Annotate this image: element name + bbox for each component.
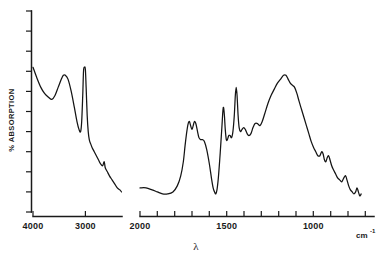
spectrum-trace-segment-2 [140,75,361,196]
x-axis-tick-label: 3000 [75,221,96,231]
x-axis-tick-label: 1500 [216,221,237,231]
x-axis-ticks [33,211,365,216]
spectrum-plot: 40003000200015001000 cm -1 λ % ABSORPTIO… [0,0,382,263]
x-axis-tick-labels: 40003000200015001000 [23,221,324,231]
x-axis-unit-exponent: -1 [370,228,376,234]
x-axis-tick-label: 2000 [130,221,151,231]
x-axis-tick-label: 1000 [303,221,324,231]
x-axis-tick-label: 4000 [23,221,44,231]
x-axis-title: λ [193,240,199,252]
ir-spectrum-figure: 40003000200015001000 cm -1 λ % ABSORPTIO… [0,0,382,263]
x-axis-unit-label: cm [356,231,368,240]
y-axis-title: % ABSORPTION [7,88,16,151]
spectrum-trace-segment-1 [33,67,121,192]
